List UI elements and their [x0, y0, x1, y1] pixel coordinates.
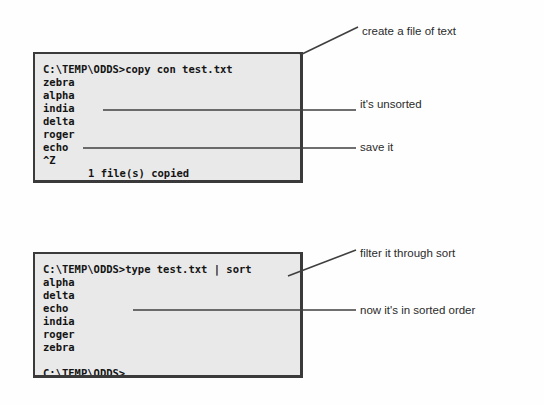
console-line: india: [43, 102, 298, 115]
copy-con-console: C:\TEMP\ODDS>copy con test.txt zebra alp…: [33, 52, 303, 183]
console-line: roger: [43, 328, 298, 341]
type-sort-console: C:\TEMP\ODDS>type test.txt | sort alpha …: [33, 252, 303, 378]
console-line: alpha: [43, 276, 298, 289]
console-blank-line: [43, 354, 298, 367]
console-command-line: C:\TEMP\ODDS>type test.txt | sort: [43, 263, 298, 276]
console-line: C:\TEMP\ODDS>copy con test.txt: [43, 63, 298, 76]
console-line-eof-marker: ^Z: [43, 154, 298, 167]
console-line: delta: [43, 289, 298, 302]
annotation-create-a-file-of-text: create a file of text: [362, 25, 456, 38]
annotation-filter-it-through-sort: filter it through sort: [360, 247, 455, 260]
console-line: echo: [43, 302, 298, 315]
annotation-its-unsorted: it's unsorted: [360, 98, 422, 111]
console-line: zebra: [43, 341, 298, 354]
console-line: roger: [43, 128, 298, 141]
console-line: alpha: [43, 89, 298, 102]
console-final-prompt: C:\TEMP\ODDS>: [43, 367, 298, 378]
console-status-line: 1 file(s) copied: [43, 167, 298, 180]
annotation-save-it: save it: [360, 141, 393, 154]
console-line: zebra: [43, 76, 298, 89]
console-line: delta: [43, 115, 298, 128]
copy-con-console-text: C:\TEMP\ODDS>copy con test.txt zebra alp…: [43, 63, 298, 180]
figure-canvas: C:\TEMP\ODDS>copy con test.txt zebra alp…: [0, 0, 544, 405]
console-line: india: [43, 315, 298, 328]
leader-line-create: [300, 27, 358, 55]
console-line: echo: [43, 141, 298, 154]
annotation-now-its-in-sorted-order: now it's in sorted order: [360, 304, 475, 317]
type-sort-console-text: C:\TEMP\ODDS>type test.txt | sort alpha …: [43, 263, 298, 378]
